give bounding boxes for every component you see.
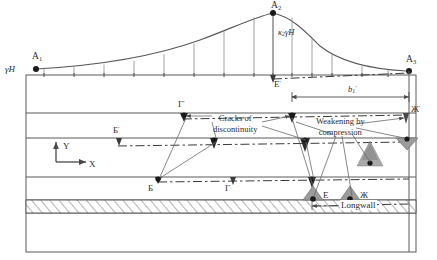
leader-diag-3 <box>292 118 313 186</box>
point-A2-marker <box>270 10 276 16</box>
diagram-canvas: γH A1 A2 A3 κ2γH E′ b1′ Г′ Ж′ Б′ Cracks … <box>0 0 437 260</box>
point-E-marker <box>310 196 316 202</box>
label-b1-prime: b1′ <box>348 84 356 94</box>
label-B-prime: Б′ <box>113 125 120 135</box>
load-distribution <box>33 10 412 77</box>
load-ordinates <box>44 13 388 75</box>
separation-line-4 <box>158 179 409 182</box>
label-A1: A1 <box>32 51 42 62</box>
label-axis-Y: Y <box>63 141 70 151</box>
leader-diag-2 <box>160 142 216 178</box>
crack-marker-Zh-prime-upper <box>403 113 409 124</box>
label-E: Е <box>323 190 329 200</box>
annotation-weakening-by-compression: Weakening by compression <box>316 116 365 138</box>
point-A1-marker <box>33 66 39 72</box>
label-gammaH: γH <box>5 64 15 74</box>
crack-marker-B-prime <box>116 138 122 146</box>
leader-diag-4 <box>306 142 314 180</box>
strata-block <box>26 75 416 252</box>
label-G: Г <box>225 183 230 193</box>
leader-weak-4 <box>342 136 352 196</box>
label-axis-X: X <box>89 159 96 169</box>
coordinate-axes <box>56 142 86 162</box>
rock-mass-outline <box>26 75 416 252</box>
label-B: Б <box>148 183 153 193</box>
label-Zh: Ж <box>360 190 368 200</box>
label-E-prime: E′ <box>274 79 281 89</box>
label-G-prime: Г′ <box>178 99 185 109</box>
bedding-separation-lines <box>118 73 409 206</box>
label-k2gammaH: κ2γH <box>278 27 294 37</box>
annotation-cracks-of-discontinuity: Cracks of discontinuity <box>213 113 257 135</box>
label-A3: A3 <box>406 54 416 65</box>
separation-line-top <box>273 73 409 79</box>
label-Zh-prime: Ж′ <box>411 104 420 114</box>
leader-weak-5 <box>314 136 336 196</box>
load-curve <box>36 13 406 71</box>
separation-line-3 <box>118 142 409 146</box>
annotation-longwall: Longwall <box>340 200 377 210</box>
leader-diag-1 <box>160 118 186 177</box>
label-A2: A2 <box>271 0 281 11</box>
